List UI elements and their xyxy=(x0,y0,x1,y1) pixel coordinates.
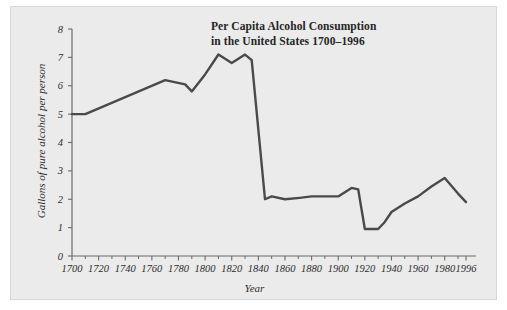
chart-page: Per Capita Alcohol Consumption in the Un… xyxy=(0,0,507,310)
svg-text:1700: 1700 xyxy=(62,263,84,274)
svg-text:1740: 1740 xyxy=(115,263,137,274)
svg-text:1980: 1980 xyxy=(434,263,456,274)
svg-text:1720: 1720 xyxy=(88,263,110,274)
svg-text:1: 1 xyxy=(58,222,63,233)
svg-text:7: 7 xyxy=(58,52,64,63)
chart-panel: Per Capita Alcohol Consumption in the Un… xyxy=(10,6,497,300)
x-axis-ticks: 1700172017401760178018001820184018601880… xyxy=(62,256,478,274)
svg-text:1960: 1960 xyxy=(408,263,430,274)
svg-text:8: 8 xyxy=(58,24,64,35)
svg-text:1840: 1840 xyxy=(248,263,270,274)
svg-text:1880: 1880 xyxy=(301,263,323,274)
svg-text:1800: 1800 xyxy=(195,263,217,274)
svg-text:1820: 1820 xyxy=(221,263,243,274)
svg-text:1860: 1860 xyxy=(274,263,296,274)
svg-text:4: 4 xyxy=(58,137,64,148)
chart-plot: 012345678 170017201740176017801800182018… xyxy=(11,7,497,300)
svg-text:3: 3 xyxy=(57,165,63,176)
svg-text:0: 0 xyxy=(58,251,64,262)
svg-text:1760: 1760 xyxy=(141,263,163,274)
svg-text:1900: 1900 xyxy=(328,263,350,274)
svg-text:2: 2 xyxy=(58,194,64,205)
svg-text:5: 5 xyxy=(58,109,63,120)
svg-text:6: 6 xyxy=(58,80,64,91)
y-axis-ticks: 012345678 xyxy=(57,24,72,262)
svg-text:1780: 1780 xyxy=(168,263,190,274)
svg-text:1940: 1940 xyxy=(381,263,403,274)
svg-text:1996: 1996 xyxy=(456,263,478,274)
svg-text:1920: 1920 xyxy=(354,263,376,274)
data-series-line xyxy=(72,55,466,230)
